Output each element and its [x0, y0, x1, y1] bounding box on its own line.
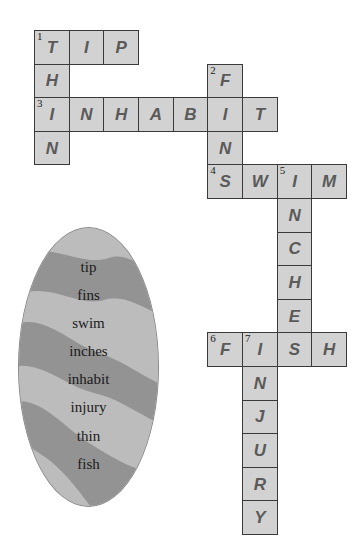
crossword-cell[interactable]: N: [207, 131, 243, 166]
crossword-cell[interactable]: E: [277, 299, 313, 334]
crossword-cell[interactable]: I: [207, 97, 243, 132]
cell-letter: T: [255, 106, 265, 123]
word-bank-item: fins: [18, 288, 159, 303]
cell-letter: M: [322, 173, 336, 190]
cell-letter: S: [289, 341, 300, 358]
cell-letter: N: [288, 207, 300, 224]
cell-letter: T: [47, 39, 57, 56]
crossword-cell[interactable]: 3I: [34, 97, 70, 132]
cell-letter: J: [255, 408, 264, 425]
crossword-cell[interactable]: C: [277, 232, 313, 267]
cell-letter: F: [220, 72, 230, 89]
cell-letter: F: [220, 341, 230, 358]
clue-number: 2: [210, 65, 216, 76]
word-bank-item: inhabit: [18, 372, 159, 387]
crossword-cell[interactable]: U: [242, 433, 278, 468]
crossword-cell[interactable]: H: [34, 64, 70, 99]
crossword-cell[interactable]: I: [69, 30, 105, 65]
crossword-cell[interactable]: 4S: [207, 164, 243, 199]
cell-letter: Y: [254, 509, 265, 526]
clue-number: 1: [37, 31, 43, 42]
cell-letter: N: [219, 140, 231, 157]
crossword-cell[interactable]: Y: [242, 500, 278, 535]
cell-letter: N: [46, 140, 58, 157]
crossword-cell[interactable]: 1T: [34, 30, 70, 65]
crossword-cell[interactable]: M: [311, 164, 347, 199]
word-bank-item: tip: [18, 260, 159, 275]
crossword-cell[interactable]: N: [242, 366, 278, 401]
cell-letter: I: [223, 106, 228, 123]
word-bank-item: inches: [18, 344, 159, 359]
crossword-cell[interactable]: 5I: [277, 164, 313, 199]
clue-number: 4: [210, 165, 216, 176]
clue-number: 6: [210, 333, 216, 344]
cell-letter: E: [289, 308, 300, 325]
cell-letter: S: [220, 173, 231, 190]
word-bank-item: thin: [18, 429, 159, 444]
cell-letter: H: [323, 341, 335, 358]
clue-number: 5: [280, 165, 286, 176]
crossword-cell[interactable]: B: [173, 97, 209, 132]
cell-letter: I: [292, 173, 297, 190]
crossword-cell[interactable]: T: [242, 97, 278, 132]
cell-letter: I: [257, 341, 262, 358]
cell-letter: H: [115, 106, 127, 123]
crossword-cell[interactable]: S: [277, 332, 313, 367]
cell-letter: H: [46, 72, 58, 89]
crossword-cell[interactable]: N: [277, 198, 313, 233]
crossword-cell[interactable]: W: [242, 164, 278, 199]
crossword-cell[interactable]: A: [138, 97, 174, 132]
clue-number: 3: [37, 98, 43, 109]
clue-number: 7: [245, 333, 251, 344]
cell-letter: N: [80, 106, 92, 123]
cell-letter: I: [49, 106, 54, 123]
crossword-cell[interactable]: H: [311, 332, 347, 367]
word-bank-item: fish: [18, 457, 159, 472]
cell-letter: N: [254, 375, 266, 392]
crossword-cell[interactable]: N: [69, 97, 105, 132]
crossword-cell[interactable]: 7I: [242, 332, 278, 367]
crossword-cell[interactable]: R: [242, 467, 278, 502]
cell-letter: U: [254, 442, 266, 459]
cell-letter: A: [150, 106, 162, 123]
cell-letter: B: [184, 106, 196, 123]
cell-letter: C: [288, 240, 300, 257]
crossword-cell[interactable]: 2F: [207, 64, 243, 99]
crossword-cell[interactable]: P: [103, 30, 139, 65]
cell-letter: W: [252, 173, 268, 190]
crossword-cell[interactable]: J: [242, 400, 278, 435]
crossword-cell[interactable]: N: [34, 131, 70, 166]
cell-letter: I: [84, 39, 89, 56]
cell-letter: P: [115, 39, 126, 56]
crossword-cell[interactable]: H: [277, 265, 313, 300]
word-bank-item: injury: [18, 400, 159, 415]
word-bank-item: swim: [18, 316, 159, 331]
cell-letter: H: [288, 274, 300, 291]
cell-letter: R: [254, 476, 266, 493]
crossword-cell[interactable]: 6F: [207, 332, 243, 367]
crossword-cell[interactable]: H: [103, 97, 139, 132]
